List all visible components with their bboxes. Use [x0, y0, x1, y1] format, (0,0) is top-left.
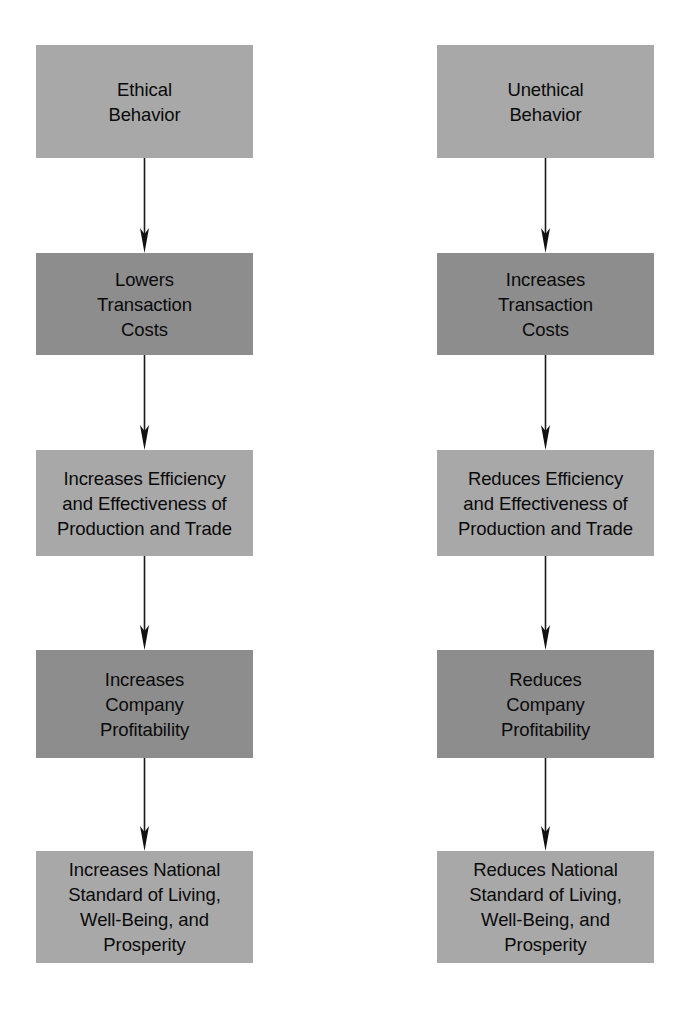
node-lowers-transaction-costs: Lowers Transaction Costs — [36, 253, 253, 355]
node-ethical-behavior: Ethical Behavior — [36, 45, 253, 158]
arrow-ethical-3 — [140, 556, 149, 650]
flowchart-column-unethical: Unethical Behavior Increases Transaction… — [437, 0, 654, 1014]
node-increases-efficiency: Increases Efficiency and Effectiveness o… — [36, 450, 253, 556]
node-reduces-national-standard-of-living: Reduces National Standard of Living, Wel… — [437, 851, 654, 963]
node-increases-national-standard-of-living: Increases National Standard of Living, W… — [36, 851, 253, 963]
flowchart-column-ethical: Ethical Behavior Lowers Transaction Cost… — [36, 0, 253, 1014]
node-increases-company-profitability: Increases Company Profitability — [36, 650, 253, 758]
arrow-unethical-1 — [541, 158, 550, 253]
arrow-unethical-3 — [541, 556, 550, 650]
arrow-unethical-4 — [541, 758, 550, 851]
arrow-ethical-2 — [140, 355, 149, 450]
node-reduces-efficiency: Reduces Efficiency and Effectiveness of … — [437, 450, 654, 556]
node-reduces-company-profitability: Reduces Company Profitability — [437, 650, 654, 758]
arrow-ethical-1 — [140, 158, 149, 253]
node-increases-transaction-costs: Increases Transaction Costs — [437, 253, 654, 355]
flowchart-canvas: Ethical Behavior Lowers Transaction Cost… — [0, 0, 691, 1014]
node-unethical-behavior: Unethical Behavior — [437, 45, 654, 158]
arrow-ethical-4 — [140, 758, 149, 851]
arrow-unethical-2 — [541, 355, 550, 450]
